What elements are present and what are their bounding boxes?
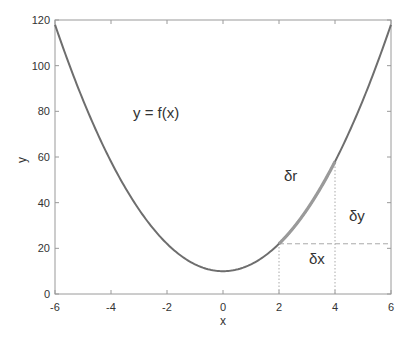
x-tick-label: 6 (388, 301, 394, 313)
y-tick-label: 60 (38, 151, 50, 163)
y-tick-label: 120 (32, 14, 50, 26)
x-tick-label: 2 (276, 301, 282, 313)
x-axis-label: x (220, 314, 226, 328)
y-tick-label: 0 (44, 288, 50, 300)
x-tick-label: -2 (162, 301, 172, 313)
x-tick-label: -4 (106, 301, 116, 313)
delta-r-label: δr (284, 167, 297, 184)
plot-frame (55, 20, 391, 294)
chart-figure: -6-4-20246020406080100120 y = f(x) δr δy… (0, 0, 415, 341)
delta-y-label: δy (349, 207, 365, 224)
delta-x-label: δx (309, 250, 325, 267)
y-tick-label: 20 (38, 242, 50, 254)
x-tick-label: 0 (220, 301, 226, 313)
y-tick-label: 40 (38, 197, 50, 209)
curves (55, 25, 391, 272)
y-axis-label: y (15, 157, 29, 163)
equation-label: y = f(x) (133, 104, 179, 121)
axes: -6-4-20246020406080100120 (32, 14, 394, 313)
x-tick-label: -6 (50, 301, 60, 313)
y-tick-label: 80 (38, 105, 50, 117)
plot-canvas: -6-4-20246020406080100120 y = f(x) δr δy… (0, 0, 415, 341)
y-tick-label: 100 (32, 60, 50, 72)
function-curve (55, 25, 391, 272)
x-tick-label: 4 (332, 301, 338, 313)
